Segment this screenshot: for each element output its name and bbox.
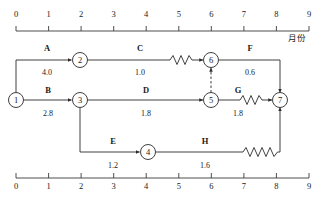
network-diagram-svg: 1 2 3 4 5 6 7 A 4.0 B 2.8 C xyxy=(0,0,323,208)
top-axis-label-9: 9 xyxy=(301,10,317,19)
network-diagram-canvas: 1 2 3 4 5 6 7 A 4.0 B 2.8 C xyxy=(0,0,323,208)
bottom-axis-label-5: 5 xyxy=(171,182,187,191)
activity-C-duration: 1.0 xyxy=(135,68,145,77)
activity-D-duration: 1.8 xyxy=(141,109,151,118)
activity-H-duration: 1.6 xyxy=(200,161,210,170)
bottom-axis-label-4: 4 xyxy=(138,182,154,191)
top-axis-label-5: 5 xyxy=(171,10,187,19)
top-axis-label-8: 8 xyxy=(268,10,284,19)
node-6[interactable]: 6 xyxy=(204,53,219,68)
activity-G-name: G xyxy=(235,85,242,95)
top-axis-label-4: 4 xyxy=(138,10,154,19)
activity-G-duration: 1.8 xyxy=(233,109,243,118)
activity-D-name: D xyxy=(143,85,149,95)
node-5-label: 5 xyxy=(209,95,213,105)
node-3-label: 3 xyxy=(78,95,82,105)
edge-C xyxy=(88,56,204,65)
edge-C-float-zigzag xyxy=(170,56,203,65)
node-3[interactable]: 3 xyxy=(73,93,88,108)
top-axis xyxy=(16,26,309,31)
activity-B-duration: 2.8 xyxy=(43,109,53,118)
node-5[interactable]: 5 xyxy=(204,93,219,108)
bottom-axis-label-8: 8 xyxy=(268,182,284,191)
top-axis-label-6: 6 xyxy=(203,10,219,19)
bottom-axis-label-7: 7 xyxy=(236,182,252,191)
bottom-axis-label-3: 3 xyxy=(106,182,122,191)
node-6-label: 6 xyxy=(209,55,213,65)
bottom-axis-label-6: 6 xyxy=(203,182,219,191)
top-axis-label-3: 3 xyxy=(106,10,122,19)
top-axis-label-2: 2 xyxy=(73,10,89,19)
node-7[interactable]: 7 xyxy=(273,93,288,108)
activity-E-duration: 1.2 xyxy=(108,161,118,170)
bottom-axis-label-9: 9 xyxy=(301,182,317,191)
activity-B-name: B xyxy=(45,85,51,95)
activity-E-name: E xyxy=(110,136,116,146)
top-axis-label-7: 7 xyxy=(236,10,252,19)
bottom-axis-label-0: 0 xyxy=(8,182,24,191)
node-2[interactable]: 2 xyxy=(73,53,88,68)
axis-unit-label: 月份 xyxy=(288,34,306,43)
bottom-axis-label-2: 2 xyxy=(73,182,89,191)
activity-F-duration: 0.6 xyxy=(245,68,255,77)
node-2-label: 2 xyxy=(78,55,82,65)
node-1[interactable]: 1 xyxy=(9,93,24,108)
top-axis-label-1: 1 xyxy=(41,10,57,19)
node-1-label: 1 xyxy=(14,95,18,105)
bottom-axis-label-1: 1 xyxy=(41,182,57,191)
bottom-axis xyxy=(16,173,309,178)
node-4[interactable]: 4 xyxy=(141,145,156,160)
edge-H xyxy=(156,108,281,157)
edge-G xyxy=(219,96,273,105)
activity-A-duration: 4.0 xyxy=(42,68,52,77)
activity-A-name: A xyxy=(44,43,51,53)
top-axis-label-0: 0 xyxy=(8,10,24,19)
activity-C-name: C xyxy=(137,43,143,53)
node-7-label: 7 xyxy=(278,95,282,105)
activity-H-name: H xyxy=(202,136,209,146)
edge-H-float-zigzag xyxy=(243,148,280,157)
edge-G-float-zigzag xyxy=(240,96,272,105)
activity-F-name: F xyxy=(247,43,252,53)
